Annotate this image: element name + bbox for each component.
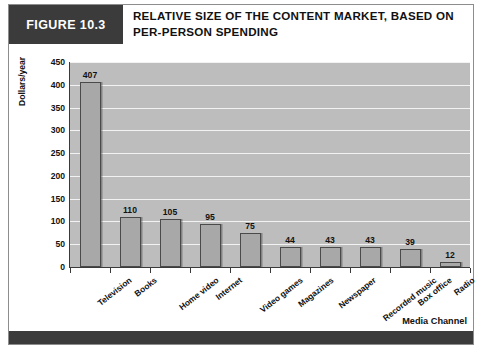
bar-value-label: 105 — [150, 207, 190, 217]
x-axis-category-label: Radio — [452, 275, 476, 297]
bar — [360, 247, 381, 267]
bar — [80, 82, 101, 267]
x-axis-category-label: Television — [96, 275, 134, 308]
y-axis-tick-label: 250 — [39, 148, 65, 158]
bar-value-label: 44 — [270, 235, 310, 245]
gridline — [70, 176, 470, 177]
gridline — [70, 62, 470, 63]
bar — [440, 262, 461, 267]
x-axis-tick — [430, 268, 431, 273]
y-axis-tick-labels: 050100150200250300350400450 — [35, 62, 65, 268]
gridline — [70, 85, 470, 86]
bar — [240, 233, 261, 267]
bar-value-label: 39 — [390, 237, 430, 247]
y-axis-tick-label: 100 — [39, 216, 65, 226]
gridline — [70, 153, 470, 154]
y-axis-tick-label: 200 — [39, 171, 65, 181]
y-axis-tick-label: 450 — [39, 57, 65, 67]
x-axis-category-label: Books — [132, 275, 158, 299]
y-axis-tick-label: 150 — [39, 194, 65, 204]
x-axis-tick — [350, 268, 351, 273]
bar-value-label: 12 — [430, 250, 470, 260]
bar — [400, 249, 421, 267]
bar-value-label: 110 — [110, 205, 150, 215]
bar — [160, 219, 181, 267]
y-axis-title: Dollars/year — [17, 92, 27, 106]
x-axis-title: Media Channel — [402, 316, 467, 326]
y-axis-tick-label: 350 — [39, 103, 65, 113]
y-axis-tick-label: 0 — [39, 262, 65, 272]
x-axis-tick — [70, 268, 71, 273]
gridline — [70, 199, 470, 200]
bar-value-label: 95 — [190, 212, 230, 222]
x-axis-tick — [390, 268, 391, 273]
x-axis-category-label: Newspaper — [336, 275, 377, 310]
x-axis-tick — [190, 268, 191, 273]
x-axis-tick — [470, 268, 471, 273]
x-axis-tick — [230, 268, 231, 273]
bar-value-label: 407 — [70, 70, 110, 80]
y-axis-tick-label: 400 — [39, 80, 65, 90]
bar — [280, 247, 301, 267]
bar — [320, 247, 341, 267]
figure-number-tag: FIGURE 10.3 — [9, 5, 123, 44]
x-axis-tick — [110, 268, 111, 273]
y-axis-tick-label: 50 — [39, 239, 65, 249]
gridline — [70, 108, 470, 109]
figure-card: FIGURE 10.3 RELATIVE SIZE OF THE CONTENT… — [8, 4, 474, 345]
x-axis-category-label: Video games — [258, 275, 305, 315]
figure-title-line-2: PER-PERSON SPENDING — [133, 24, 469, 40]
chart-body: Dollars/year 050100150200250300350400450… — [9, 44, 473, 332]
figure-header: FIGURE 10.3 RELATIVE SIZE OF THE CONTENT… — [9, 5, 473, 44]
plot-area: 40711010595754443433912 — [69, 62, 470, 268]
gridline — [70, 130, 470, 131]
bar-value-label: 43 — [350, 235, 390, 245]
figure-title-line-1: RELATIVE SIZE OF THE CONTENT MARKET, BAS… — [133, 9, 454, 22]
bar-value-label: 43 — [310, 235, 350, 245]
x-axis-tick — [310, 268, 311, 273]
bar — [200, 224, 221, 267]
x-axis-tick — [150, 268, 151, 273]
bar — [120, 217, 141, 267]
bar-value-label: 75 — [230, 221, 270, 231]
figure-title: RELATIVE SIZE OF THE CONTENT MARKET, BAS… — [133, 8, 469, 39]
figure-footer-bar — [9, 331, 473, 344]
y-axis-tick-label: 300 — [39, 125, 65, 135]
x-axis-tick — [270, 268, 271, 273]
